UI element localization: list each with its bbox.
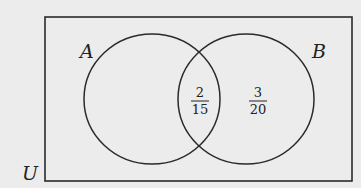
venn-diagram-svg: A B U 2 15 3 20	[0, 0, 361, 188]
intersection-fraction: 2 15	[191, 85, 209, 117]
intersection-denominator: 15	[192, 102, 209, 117]
universe-label: U	[22, 162, 39, 184]
intersection-numerator: 2	[196, 85, 204, 100]
b-only-numerator: 3	[254, 85, 262, 100]
set-b-label: B	[311, 40, 326, 62]
venn-diagram: A B U 2 15 3 20	[0, 0, 361, 188]
set-a-label: A	[78, 40, 94, 62]
b-only-fraction: 3 20	[249, 85, 267, 117]
b-only-denominator: 20	[250, 102, 267, 117]
